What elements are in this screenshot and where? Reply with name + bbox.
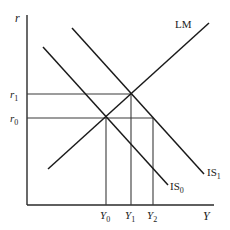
is1-label: IS1 [207, 166, 221, 181]
y-axis-label: r [15, 11, 20, 25]
x-axis-label: Y [203, 209, 211, 223]
y1-tick-label: Y1 [125, 209, 135, 224]
y0-tick-label: Y0 [100, 209, 110, 224]
lm-curve [48, 23, 209, 169]
is-lm-diagram: r Y r1 r0 Y0 Y1 Y2 LM IS0 IS1 [0, 0, 230, 230]
curves [43, 23, 209, 185]
lm-label: LM [175, 18, 192, 30]
y2-tick-label: Y2 [147, 209, 157, 224]
is0-label: IS0 [170, 180, 184, 195]
r1-tick-label: r1 [10, 88, 18, 103]
r0-tick-label: r0 [10, 112, 18, 127]
guide-lines [27, 94, 153, 205]
